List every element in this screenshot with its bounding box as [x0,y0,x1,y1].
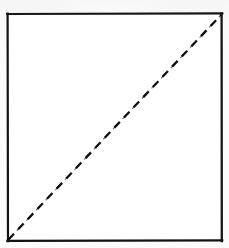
square-edge-top [7,13,222,14]
square-diagonal-figure: Square with dashed diagonal A hand-drawn… [0,0,229,248]
figure-root: Square with dashed diagonal A hand-drawn… [0,0,229,248]
